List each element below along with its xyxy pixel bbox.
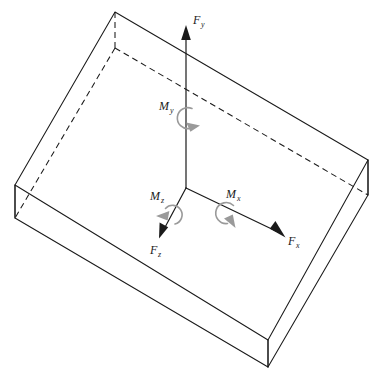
label-fx: F x	[287, 234, 300, 250]
label-fy: F y	[192, 13, 205, 29]
label-fx-symbol: F	[287, 234, 296, 248]
label-mx-symbol: M	[225, 187, 237, 201]
label-fy-symbol: F	[192, 13, 201, 27]
moment-mx-arrowhead	[224, 215, 236, 228]
moment-arc-mz	[156, 205, 182, 224]
label-fz-subscript: z	[157, 250, 162, 259]
plate-hidden-edge-to-left	[15, 48, 115, 218]
label-mz-subscript: z	[160, 196, 165, 205]
label-fz-symbol: F	[149, 243, 158, 257]
moment-arc-my	[177, 108, 200, 132]
force-fy-arrowhead	[181, 25, 191, 40]
plate-right-side-face	[268, 160, 368, 367]
moment-arcs	[156, 108, 236, 228]
label-my-subscript: y	[169, 106, 174, 115]
vector-labels: F y F z F x M y M z	[149, 13, 300, 259]
force-fx-arrowhead	[270, 221, 286, 238]
diagram-canvas: F y F z F x M y M z	[0, 0, 379, 378]
label-my-symbol: M	[158, 99, 170, 113]
plate-top-face-edge	[15, 12, 368, 340]
label-fz: F z	[149, 243, 162, 259]
label-my: M y	[158, 99, 174, 115]
moment-my-arrowhead	[186, 123, 200, 132]
moment-mz-arrowhead	[156, 211, 169, 221]
label-mz-symbol: M	[149, 189, 161, 203]
plate-hidden-edge-to-right	[115, 48, 368, 195]
label-mx: M x	[225, 187, 241, 203]
plate-left-side-face	[15, 185, 268, 367]
plate-body	[15, 12, 368, 367]
label-fx-subscript: x	[295, 241, 300, 250]
label-mz: M z	[149, 189, 165, 205]
force-vector-fy	[181, 25, 191, 188]
label-mx-subscript: x	[236, 194, 241, 203]
force-moment-diagram: F y F z F x M y M z	[0, 0, 379, 378]
label-fy-subscript: y	[200, 20, 205, 29]
